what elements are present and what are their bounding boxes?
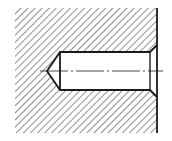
- section-hatch: [15, 8, 157, 133]
- hole-section-drawing: [0, 0, 172, 141]
